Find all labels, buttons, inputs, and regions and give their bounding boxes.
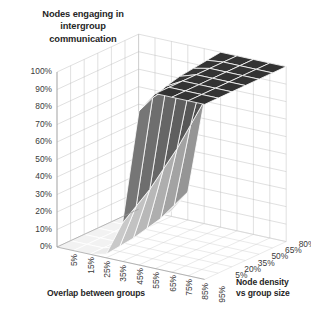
x-axis-tick: 65% <box>168 275 178 303</box>
z-axis-title: Node density vs group size <box>236 277 311 299</box>
x-axis-tick: 15% <box>86 257 96 285</box>
x-axis-tick: 85% <box>200 283 210 311</box>
y-axis-tick: 70% <box>0 119 52 129</box>
y-axis-tick: 80% <box>0 101 52 111</box>
y-axis-tick: 40% <box>0 171 52 181</box>
y-axis-tick: 0% <box>0 241 52 251</box>
x-axis-title: Overlap between groups <box>26 288 166 299</box>
y-axis-tick: 20% <box>0 206 52 216</box>
x-axis-tick: 75% <box>184 279 194 307</box>
x-axis-line <box>57 247 205 279</box>
x-axis-tick: 25% <box>102 261 112 289</box>
y-axis-tick: 60% <box>0 136 52 146</box>
y-axis-tick: 10% <box>0 224 52 234</box>
surface-chart: Nodes engaging in intergroup communicati… <box>0 0 311 317</box>
z-axis-tick: 95% <box>295 232 311 242</box>
y-axis-tick: 90% <box>0 84 52 94</box>
y-axis-tick: 50% <box>0 154 52 164</box>
z-axis-title-line-2: vs group size <box>236 288 311 299</box>
z-axis-title-line-1: Node density <box>236 277 311 288</box>
y-axis-tick: 100% <box>0 66 52 76</box>
y-axis-tick: 30% <box>0 189 52 199</box>
x-axis-tick: 5% <box>69 254 79 282</box>
x-axis-tick: 95% <box>217 286 227 314</box>
